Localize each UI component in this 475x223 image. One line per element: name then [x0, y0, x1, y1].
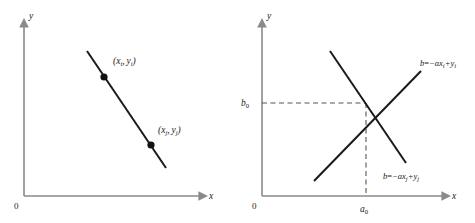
left-x-axis-label: x — [208, 191, 214, 201]
left-origin-label: 0 — [14, 201, 19, 211]
right-equation-label-i: b=−axi+yi — [420, 58, 456, 69]
left-data-point-j — [147, 141, 154, 148]
right-line-j — [330, 51, 406, 163]
left-fitted-line — [87, 51, 166, 168]
left-plot-panel: y x 0 (xi, yi) (xj, yj) — [0, 0, 237, 223]
right-equation-label-j: b=−axj+yj — [383, 171, 419, 182]
right-x-tick-label: a0 — [360, 204, 369, 215]
left-point-label-j: (xj, yj) — [158, 125, 181, 136]
left-data-point-i — [100, 73, 107, 80]
figure-root: y x 0 (xi, yi) (xj, yj) y — [0, 0, 475, 223]
left-point-label-i: (xi, yi) — [113, 56, 136, 67]
right-y-tick-label: b0 — [241, 98, 250, 109]
right-origin-label: 0 — [252, 201, 257, 211]
left-y-axis-label: y — [28, 11, 34, 21]
right-y-axis-label: y — [266, 11, 272, 21]
right-line-i — [314, 71, 421, 181]
right-x-axis-label: x — [451, 191, 457, 201]
right-plot-panel: y x 0 b0 a0 b=−axi+yi b=−axj+yj — [237, 0, 475, 223]
